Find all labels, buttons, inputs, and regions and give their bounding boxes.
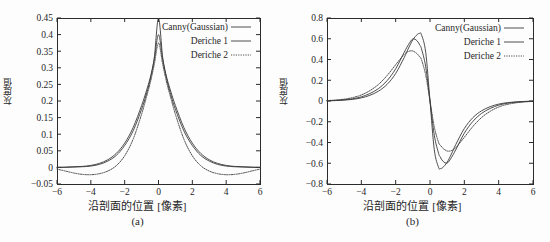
panel-a: 灰度值 −0.0500.050.10.150.20.250.30.350.40.… <box>0 0 275 242</box>
panel-b-legend: Canny(Gaussian)Deriche 1Deriche 2 <box>435 23 524 61</box>
panel-b-xlabel: 沿剖面的位置 [像素] <box>275 197 550 213</box>
x-tick-label: −6 <box>322 187 332 197</box>
x-tick-label: −4 <box>86 187 96 197</box>
panel-b-curves <box>327 33 533 169</box>
y-tick-label: 0.2 <box>41 96 53 106</box>
y-tick-label: 0 <box>48 163 53 173</box>
legend-label-2: Deriche 1 <box>191 36 228 46</box>
x-tick-label: 6 <box>258 187 263 197</box>
x-tick-label: 0 <box>156 187 161 197</box>
curve-canny-gaussian <box>57 18 260 167</box>
curve-deriche-2 <box>327 51 533 151</box>
x-tick-label: 2 <box>462 187 467 197</box>
panel-a-curves <box>57 18 260 175</box>
legend-label-2: Deriche 1 <box>464 37 501 47</box>
curve-deriche-2 <box>57 43 260 175</box>
panel-b-axes: −0.8−0.6−0.4−0.200.20.40.60.8−6−4−20246 <box>306 13 536 197</box>
x-tick-label: 6 <box>531 187 536 197</box>
y-tick-label: −0.05 <box>31 179 53 189</box>
x-tick-label: −4 <box>356 187 366 197</box>
y-tick-label: 0.2 <box>311 76 323 86</box>
x-tick-label: 2 <box>190 187 195 197</box>
y-tick-label: 0.15 <box>36 113 53 123</box>
y-tick-label: −0.6 <box>306 159 323 169</box>
y-tick-label: 0.3 <box>41 63 53 73</box>
y-tick-label: 0.35 <box>36 47 53 57</box>
figure-container: 灰度值 −0.0500.050.10.150.20.250.30.350.40.… <box>0 0 550 242</box>
y-tick-label: 0.1 <box>41 130 53 140</box>
y-tick-label: 0.25 <box>36 80 53 90</box>
curve-deriche-1 <box>57 35 260 168</box>
y-tick-label: 0.45 <box>36 13 53 23</box>
panel-b: 灰度值 −0.8−0.6−0.4−0.200.20.40.60.8−6−4−20… <box>275 0 550 242</box>
x-tick-label: −6 <box>52 187 62 197</box>
x-tick-label: 0 <box>428 187 433 197</box>
panel-a-caption: (a) <box>0 215 275 227</box>
panel-a-legend: Canny(Gaussian)Deriche 1Deriche 2 <box>162 22 251 60</box>
y-tick-label: 0.8 <box>311 13 323 23</box>
x-tick-label: 4 <box>224 187 229 197</box>
y-tick-label: −0.2 <box>306 117 323 127</box>
x-tick-label: −2 <box>391 187 401 197</box>
y-tick-label: 0.4 <box>41 30 53 40</box>
x-tick-label: 4 <box>496 187 501 197</box>
y-tick-label: 0.4 <box>311 55 323 65</box>
legend-label-3: Deriche 2 <box>464 51 501 61</box>
x-tick-label: −2 <box>120 187 130 197</box>
y-tick-label: 0.05 <box>36 146 53 156</box>
panel-b-caption: (b) <box>275 215 550 227</box>
panel-a-xlabel: 沿剖面的位置 [像素] <box>0 197 275 213</box>
y-tick-label: −0.4 <box>306 138 323 148</box>
legend-label-1: Canny(Gaussian) <box>162 22 228 33</box>
legend-label-1: Canny(Gaussian) <box>435 23 501 34</box>
legend-label-3: Deriche 2 <box>191 50 228 60</box>
y-tick-label: 0 <box>318 96 323 106</box>
y-tick-label: −0.8 <box>306 179 323 189</box>
y-tick-label: 0.6 <box>311 34 323 44</box>
